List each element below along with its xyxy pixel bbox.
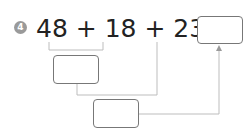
answer-box[interactable] (197, 16, 243, 44)
arrow-up-icon (216, 45, 222, 51)
second-sum-box[interactable] (93, 99, 139, 128)
first-sum-box[interactable] (53, 55, 99, 84)
